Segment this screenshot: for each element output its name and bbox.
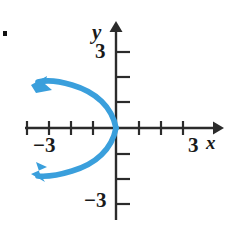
x-tick-label-3: 3 (188, 135, 199, 156)
x-axis-label: x (206, 133, 216, 152)
y-axis-arrow-icon (110, 21, 123, 32)
graph-figure: y x 3 −3 −3 3 (0, 0, 234, 234)
x-tick-label-neg3: −3 (33, 135, 55, 156)
axis-lines (25, 32, 213, 220)
y-tick-label-neg3: −3 (84, 190, 106, 211)
coordinate-plane-svg (0, 0, 234, 234)
y-tick-label-3: 3 (95, 41, 106, 62)
